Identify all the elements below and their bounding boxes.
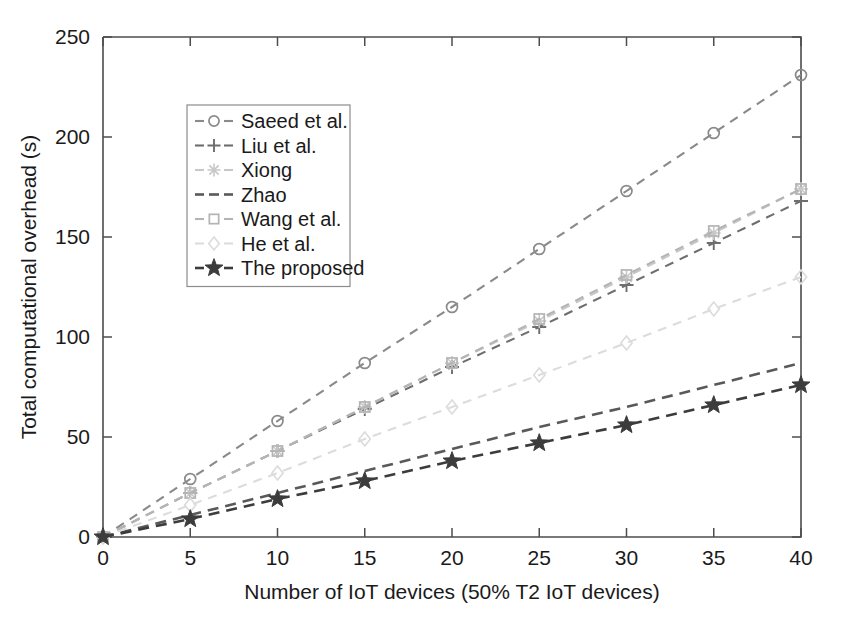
series-line	[103, 363, 801, 537]
y-tick-label: 50	[67, 425, 90, 448]
y-tick-label: 100	[55, 325, 90, 348]
y-tick-label: 250	[55, 25, 90, 48]
y-tick-label: 150	[55, 225, 90, 248]
x-tick-label: 5	[184, 546, 196, 569]
x-tick-label: 40	[789, 546, 812, 569]
legend-item-label: The proposed	[241, 257, 364, 279]
chart-svg: 0501001502002500510152025303540 Saeed et…	[0, 0, 842, 622]
data-point-marker	[794, 194, 808, 208]
y-axis-title: Total computational overhead (s)	[17, 135, 40, 440]
data-point-marker	[356, 472, 374, 489]
data-point-marker	[208, 164, 221, 177]
data-point-marker	[618, 416, 636, 433]
data-point-marker	[359, 358, 370, 369]
x-tick-label: 0	[97, 546, 109, 569]
data-point-marker	[534, 244, 545, 255]
x-tick-label: 25	[528, 546, 551, 569]
data-point-marker	[621, 336, 632, 350]
data-point-marker	[443, 452, 461, 469]
chart-figure: 0501001502002500510152025303540 Saeed et…	[0, 0, 842, 622]
data-point-marker	[708, 128, 719, 139]
y-tick-label: 200	[55, 125, 90, 148]
series-he-et-al	[97, 270, 806, 544]
legend-item-label: Liu et al.	[241, 135, 317, 157]
data-point-marker	[705, 396, 723, 413]
x-tick-label: 10	[266, 546, 289, 569]
chart-legend[interactable]: Saeed et al.Liu et al.XiongZhaoWang et a…	[187, 105, 364, 287]
legend-item-label: Zhao	[241, 184, 287, 206]
x-axis-title: Number of IoT devices (50% T2 IoT device…	[244, 580, 660, 603]
axes: 0501001502002500510152025303540	[55, 25, 813, 569]
x-tick-label: 15	[353, 546, 376, 569]
data-point-marker	[272, 466, 283, 480]
legend-item-label: Wang et al.	[241, 208, 341, 230]
series-line	[103, 277, 801, 537]
data-point-marker	[530, 434, 548, 451]
data-point-marker	[708, 302, 719, 316]
legend-item-label: He et al.	[241, 233, 315, 255]
x-tick-label: 35	[702, 546, 725, 569]
y-tick-label: 0	[78, 525, 90, 548]
series-zhao	[103, 363, 801, 537]
legend-item-label: Xiong	[241, 159, 292, 181]
legend-item-label: Saeed et al.	[241, 110, 348, 132]
x-tick-label: 30	[615, 546, 638, 569]
x-tick-label: 20	[440, 546, 463, 569]
